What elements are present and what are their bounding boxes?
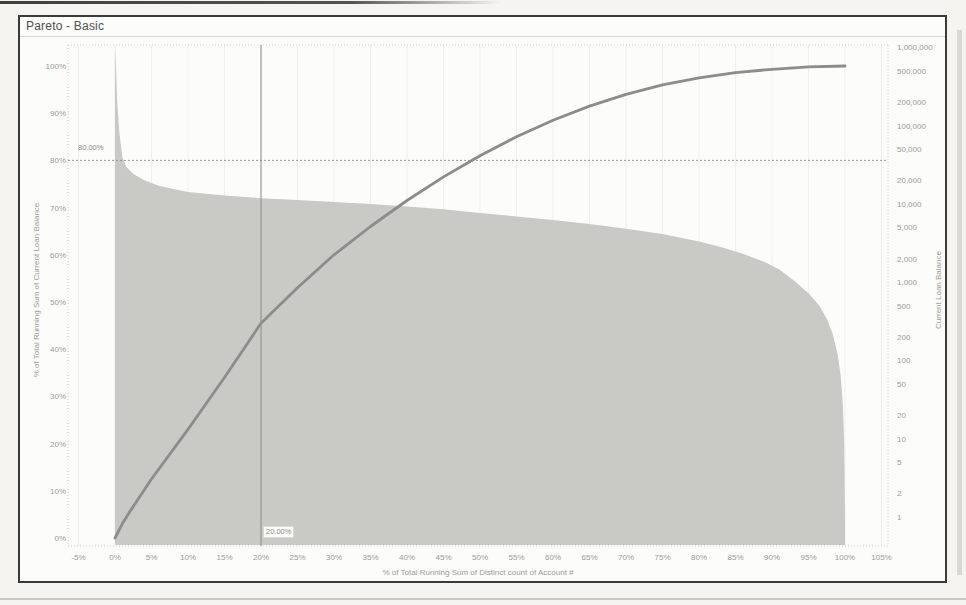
x-axis-tick-label: 20% xyxy=(253,553,269,562)
x-axis-tick-label: 0% xyxy=(109,553,121,562)
x-axis-tick-label: 45% xyxy=(435,553,451,562)
right-axis-tick-label: 100 xyxy=(897,356,911,365)
right-axis-tick-label: 50,000 xyxy=(897,145,922,154)
right-axis-tick-label: 200,000 xyxy=(897,98,926,107)
x-axis-title: % of Total Running Sum of Distinct count… xyxy=(382,568,573,577)
right-axis-title: Current Loan Balance xyxy=(934,251,943,329)
right-axis-tick-label: 50 xyxy=(897,380,906,389)
x-axis-tick-label: 95% xyxy=(800,553,816,562)
x-axis-tick-label: 40% xyxy=(399,553,415,562)
left-axis-tick-label: 10% xyxy=(50,487,66,496)
right-axis-tick-label: 20 xyxy=(897,411,906,420)
right-axis-tick-label: 2,000 xyxy=(897,255,918,264)
x-axis-tick-label: 60% xyxy=(545,553,561,562)
x-axis-tick-label: 105% xyxy=(871,553,891,562)
reference-20-label: 20.00% xyxy=(263,526,294,538)
right-axis-tick-label: 500 xyxy=(897,302,911,311)
x-axis-tick-label: 10% xyxy=(180,553,196,562)
left-axis-tick-label: 80% xyxy=(50,156,66,165)
reference-80-label: 80.00% xyxy=(78,143,103,152)
x-axis-tick-label: 65% xyxy=(581,553,597,562)
right-axis-tick-label: 10 xyxy=(897,435,906,444)
x-axis-tick-label: 15% xyxy=(216,553,232,562)
left-axis-tick-label: 90% xyxy=(50,109,66,118)
left-axis-tick-label: 100% xyxy=(46,62,66,71)
x-axis-tick-label: 25% xyxy=(289,553,305,562)
x-axis-tick-label: -5% xyxy=(71,553,85,562)
right-axis-tick-label: 500,000 xyxy=(897,67,926,76)
right-axis-tick-label: 5 xyxy=(897,458,902,467)
left-axis-tick-label: 20% xyxy=(50,440,66,449)
right-axis-tick-label: 2 xyxy=(897,489,902,498)
right-axis-tick-label: 10,000 xyxy=(897,200,922,209)
left-axis-tick-label: 40% xyxy=(50,345,66,354)
right-axis-tick-label: 200 xyxy=(897,333,911,342)
right-axis-tick-label: 1 xyxy=(897,513,902,522)
x-axis-tick-label: 70% xyxy=(618,553,634,562)
left-axis-tick-label: 70% xyxy=(50,204,66,213)
x-axis-tick-label: 35% xyxy=(362,553,378,562)
x-axis-tick-label: 80% xyxy=(691,553,707,562)
right-axis-tick-label: 20,000 xyxy=(897,176,922,185)
left-axis-tick-label: 30% xyxy=(50,392,66,401)
left-axis-tick-label: 50% xyxy=(50,298,66,307)
x-axis-tick-label: 50% xyxy=(472,553,488,562)
right-axis-tick-label: 1,000 xyxy=(897,278,918,287)
x-axis-tick-label: 30% xyxy=(326,553,342,562)
x-axis-tick-label: 85% xyxy=(727,553,743,562)
pareto-chart-plot: 0%10%20%30%40%50%60%70%80%90%100%1,000,0… xyxy=(0,0,966,605)
x-axis-tick-label: 90% xyxy=(764,553,780,562)
x-axis-tick-label: 5% xyxy=(146,553,158,562)
right-axis-tick-label: 100,000 xyxy=(897,122,926,131)
left-axis-title: % of Total Running Sum of Current Loan B… xyxy=(32,203,41,378)
left-axis-tick-label: 60% xyxy=(50,251,66,260)
left-axis-tick-label: 0% xyxy=(54,534,66,543)
x-axis-tick-label: 55% xyxy=(508,553,524,562)
right-axis-tick-label: 1,000,000 xyxy=(897,43,933,52)
x-axis-tick-label: 100% xyxy=(835,553,855,562)
right-axis-tick-label: 5,000 xyxy=(897,223,918,232)
x-axis-tick-label: 75% xyxy=(654,553,670,562)
